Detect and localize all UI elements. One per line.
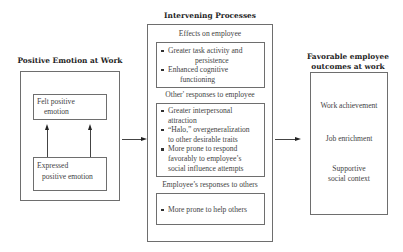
favorable-title-line-2: outcomes at work [298,62,398,72]
expressed-line-1: Expressed [37,161,68,171]
arrow-right-icon [295,137,301,141]
effects-box: Greater task activity andpersistence Enh… [156,42,265,88]
bullet-item: Enhanced cognitivefunctioning [157,65,264,84]
favorable-title-line-1: Favorable employee [298,52,398,62]
arrow-left-to-middle-shaft [122,139,142,140]
others-responses-box: Greater interpersonalattraction “Halo,” … [156,103,265,177]
felt-emotion-box: Felt positive emotion [33,94,107,120]
outcome-supportive-context: Supportive social context [310,164,388,184]
arrow-up-right-shaft [90,128,91,157]
intervening-processes-title: Intervening Processes [147,11,273,20]
bullet-item: More prone to respondfavorably to employ… [157,144,264,173]
arrow-up-left-shaft [47,128,48,157]
section-heading-others: Other' responses to employee [147,90,273,100]
bullet-item: Greater task activity andpersistence [157,46,264,65]
felt-line-2: emotion [44,107,69,117]
section-heading-effects: Effects on employee [147,29,273,39]
positive-emotion-title: Positive Emotion at Work [4,56,136,65]
expressed-line-2: positive emotion [42,172,93,182]
favorable-outcomes-title: Favorable employee outcomes at work [298,52,398,72]
arrow-up-icon [45,124,49,130]
supportive-line-1: Supportive [310,164,388,174]
section-heading-employee: Employee’s responses to others [147,180,273,190]
supportive-line-2: social context [310,174,388,184]
expressed-emotion-box: Expressed positive emotion [33,157,107,191]
bullet-item: “Halo,” overgeneralizationto other desir… [157,125,264,144]
employee-responses-box: More prone to help others [156,193,265,225]
felt-line-1: Felt positive [37,97,75,107]
outcome-work-achievement: Work achievement [310,101,388,111]
bullet-item: More prone to help others [157,205,264,215]
arrow-up-icon [88,124,92,130]
outcome-job-enrichment: Job enrichment [310,134,388,144]
bullet-item: Greater interpersonalattraction [157,106,264,125]
arrow-middle-to-right-shaft [275,139,295,140]
